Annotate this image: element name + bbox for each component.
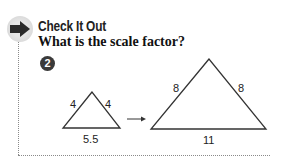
small-right-side-label: 4 <box>105 98 111 110</box>
large-base-label: 11 <box>203 134 214 146</box>
large-triangle: 8 8 11 <box>151 59 266 146</box>
small-base-label: 5.5 <box>83 133 98 145</box>
large-left-side-label: 8 <box>173 82 179 94</box>
small-triangle: 4 4 5.5 <box>63 92 120 145</box>
triangles-figure: 4 4 5.5 8 8 11 <box>0 0 283 167</box>
right-arrow-icon <box>127 117 146 122</box>
small-left-side-label: 4 <box>70 98 76 110</box>
large-right-side-label: 8 <box>238 82 244 94</box>
